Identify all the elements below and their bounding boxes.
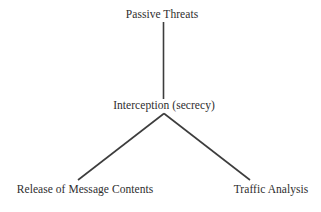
- node-release-of-message-contents: Release of Message Contents: [17, 183, 153, 196]
- edge-middle-to-leaf-left: [78, 114, 164, 181]
- node-interception-secrecy: Interception (secrecy): [113, 99, 215, 112]
- passive-threats-diagram: Passive Threats Interception (secrecy) R…: [0, 0, 321, 212]
- edge-middle-to-leaf-right: [164, 114, 250, 181]
- node-traffic-analysis: Traffic Analysis: [234, 183, 309, 196]
- node-passive-threats: Passive Threats: [126, 8, 198, 21]
